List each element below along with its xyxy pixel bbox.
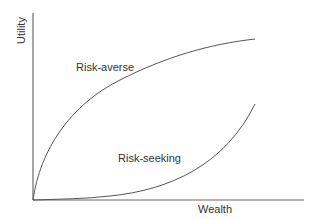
risk-averse-label: Risk-averse [76, 61, 134, 73]
risk-averse-curve [33, 39, 255, 200]
y-axis-label: Utility [15, 17, 27, 44]
risk-seeking-label: Risk-seeking [118, 152, 181, 164]
x-axis-label: Wealth [198, 203, 232, 215]
utility-chart: Risk-averse Risk-seeking Wealth Utility [0, 0, 319, 220]
